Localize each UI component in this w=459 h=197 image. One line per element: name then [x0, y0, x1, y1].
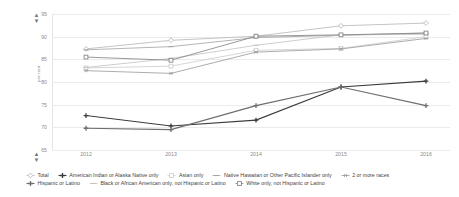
y-axis-tick-label: 65 — [41, 147, 47, 153]
series-4 — [84, 37, 428, 75]
legend-label: American Indian or Alaska Native only — [69, 172, 158, 179]
y-axis-tick-label: 75 — [41, 102, 47, 108]
legend-marker-icon — [167, 172, 176, 179]
legend-marker-icon — [26, 172, 35, 179]
legend-item[interactable]: Black or African American only, not Hisp… — [89, 180, 226, 187]
legend-label: White only, not Hispanic or Latino — [246, 180, 325, 187]
spinner-down-icon[interactable]: ▼ — [34, 157, 40, 163]
y-axis-tick-label: 80 — [41, 79, 47, 85]
x-axis-tick-label: 2013 — [165, 151, 177, 157]
legend-marker-icon — [212, 172, 221, 179]
legend-marker-icon — [235, 180, 244, 187]
series-line — [86, 87, 426, 130]
y-axis-tick-label: 85 — [41, 56, 47, 62]
legend-item[interactable]: American Indian or Alaska Native only — [58, 172, 159, 179]
plot-area: 65707580859095 20122013201420152016 — [52, 14, 450, 150]
legend-label: Native Hawaiian or Other Pacific Islande… — [224, 172, 332, 179]
legend-label: Asian only — [179, 172, 203, 179]
legend-item[interactable]: White only, not Hispanic or Latino — [235, 180, 325, 187]
y-axis-tick-label: 70 — [41, 124, 47, 130]
legend-label: Black or African American only, not Hisp… — [100, 180, 225, 187]
x-axis-tick-label: 2016 — [420, 151, 432, 157]
legend-item[interactable]: 2 or more races — [341, 172, 390, 179]
legend-item[interactable]: Total — [26, 172, 49, 179]
legend-row: Hispanic or LatinoBlack or African Ameri… — [26, 180, 438, 187]
x-axis-tick-label: 2015 — [335, 151, 347, 157]
legend-label: Total — [38, 172, 49, 179]
legend-marker-icon — [26, 180, 35, 187]
legend-label: 2 or more races — [352, 172, 389, 179]
y-axis-tick-label: 95 — [41, 11, 47, 17]
chart-page: ▲ ▼ ▲ ▼ per cent 65707580859095 20122013… — [0, 0, 459, 197]
series-layer — [52, 14, 450, 150]
legend-label: Hispanic or Latino — [38, 180, 80, 187]
legend-marker-icon — [58, 172, 67, 179]
legend-marker-icon — [341, 172, 350, 179]
legend-marker-icon — [89, 180, 98, 187]
x-axis-tick-label: 2014 — [250, 151, 262, 157]
x-axis-tick-label: 2012 — [80, 151, 92, 157]
legend-row: TotalAmerican Indian or Alaska Native on… — [26, 172, 438, 179]
y-axis-tick-label: 90 — [41, 34, 47, 40]
legend-item[interactable]: Asian only — [167, 172, 203, 179]
spinner-down-icon[interactable]: ▼ — [34, 18, 40, 24]
legend-item[interactable]: Hispanic or Latino — [26, 180, 80, 187]
chart-legend: TotalAmerican Indian or Alaska Native on… — [26, 172, 438, 188]
legend-item[interactable]: Native Hawaiian or Other Pacific Islande… — [212, 172, 331, 179]
series-5 — [84, 85, 429, 132]
series-7 — [84, 31, 428, 62]
